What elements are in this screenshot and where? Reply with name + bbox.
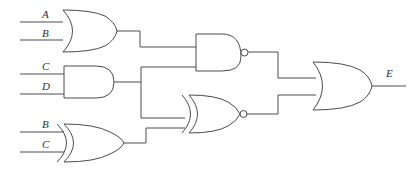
input-label-d-mid: D bbox=[41, 80, 50, 92]
wire-xnor1-to-or2-bottom bbox=[247, 95, 316, 114]
input-label-c-mid: C bbox=[42, 60, 50, 72]
gate-or-1[interactable] bbox=[63, 10, 117, 52]
input-label-b-top: B bbox=[42, 27, 49, 39]
gate-or-1-body bbox=[63, 10, 117, 52]
logic-circuit-diagram: A B C D B C E bbox=[0, 0, 411, 173]
input-label-b-bot: B bbox=[42, 118, 49, 130]
wire-nand1-to-or2-top bbox=[248, 52, 316, 78]
gate-nand-1-inversion-bubble bbox=[241, 49, 248, 56]
output-label-e: E bbox=[385, 67, 393, 79]
gate-xnor-1-inversion-bubble bbox=[240, 111, 247, 118]
gate-xnor-1[interactable] bbox=[182, 95, 247, 133]
gate-and-1-body bbox=[64, 66, 114, 98]
wire-xor1-to-xnor-bottom bbox=[124, 128, 185, 143]
circuit-canvas: A B C D B C E bbox=[0, 0, 411, 173]
gate-xor-1[interactable] bbox=[57, 124, 124, 162]
wire-or1-to-nand-top bbox=[117, 31, 196, 47]
gate-xor-1-body bbox=[64, 124, 124, 162]
gate-xnor-1-body bbox=[189, 95, 240, 133]
gate-or-2-body bbox=[313, 62, 372, 110]
gate-xor-1-arc bbox=[57, 124, 67, 162]
gate-xnor-1-arc bbox=[182, 95, 191, 133]
gate-nand-1[interactable] bbox=[196, 34, 248, 71]
gate-and-1[interactable] bbox=[64, 66, 114, 98]
gate-nand-1-body bbox=[196, 34, 241, 71]
gate-or-2[interactable] bbox=[313, 62, 372, 110]
input-label-c-bot: C bbox=[42, 138, 50, 150]
input-label-a-top: A bbox=[41, 8, 49, 20]
